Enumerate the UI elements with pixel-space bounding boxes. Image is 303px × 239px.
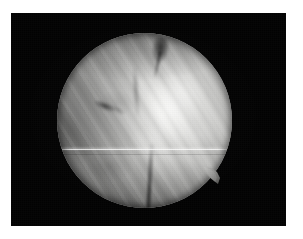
horizontal-scanline-artifact bbox=[57, 149, 232, 150]
tissue-tab-lower-right bbox=[204, 167, 228, 189]
horizontal-scanline-shadow bbox=[57, 154, 232, 155]
black-letterbox-frame bbox=[11, 13, 286, 226]
endoscopic-image-figure: Grayscale endoscopic photograph showing … bbox=[0, 0, 303, 239]
